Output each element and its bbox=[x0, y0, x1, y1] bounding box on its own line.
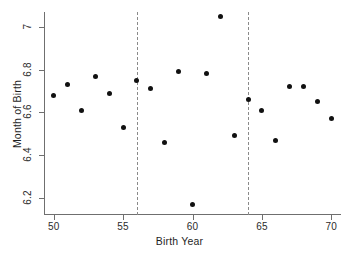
data-point bbox=[190, 202, 195, 207]
y-tick-label: 6.6 bbox=[22, 101, 33, 123]
vertical-dashed-line bbox=[137, 12, 138, 215]
y-tick-mark bbox=[39, 70, 44, 71]
x-tick-mark bbox=[123, 215, 124, 220]
x-axis-label: Birth Year bbox=[0, 235, 359, 247]
x-tick-mark bbox=[193, 215, 194, 220]
x-tick-mark bbox=[262, 215, 263, 220]
x-tick-label: 55 bbox=[108, 221, 138, 232]
y-tick-label: 7 bbox=[22, 15, 33, 37]
x-tick-mark bbox=[331, 215, 332, 220]
x-tick-label: 50 bbox=[39, 221, 69, 232]
x-tick-label: 70 bbox=[316, 221, 346, 232]
x-tick-mark bbox=[54, 215, 55, 220]
data-point bbox=[218, 14, 223, 19]
plot-area bbox=[44, 12, 341, 215]
y-tick-label: 6.2 bbox=[22, 186, 33, 208]
data-point bbox=[246, 97, 251, 102]
data-point bbox=[93, 74, 98, 79]
x-tick-label: 65 bbox=[247, 221, 277, 232]
y-tick-mark bbox=[39, 198, 44, 199]
y-tick-mark bbox=[39, 27, 44, 28]
scatter-plot-figure: 5055606570 6.26.46.66.87 Birth Year Mont… bbox=[0, 0, 359, 253]
data-point bbox=[273, 138, 278, 143]
y-tick-label: 6.4 bbox=[22, 144, 33, 166]
y-tick-label: 6.8 bbox=[22, 58, 33, 80]
vertical-dashed-line bbox=[248, 12, 249, 215]
data-point bbox=[79, 108, 84, 113]
y-axis-line bbox=[44, 12, 45, 215]
data-point bbox=[107, 91, 112, 96]
y-axis-label: Month of Birth bbox=[11, 59, 23, 169]
y-tick-mark bbox=[39, 112, 44, 113]
y-tick-mark bbox=[39, 155, 44, 156]
data-point bbox=[121, 125, 126, 130]
x-tick-label: 60 bbox=[178, 221, 208, 232]
